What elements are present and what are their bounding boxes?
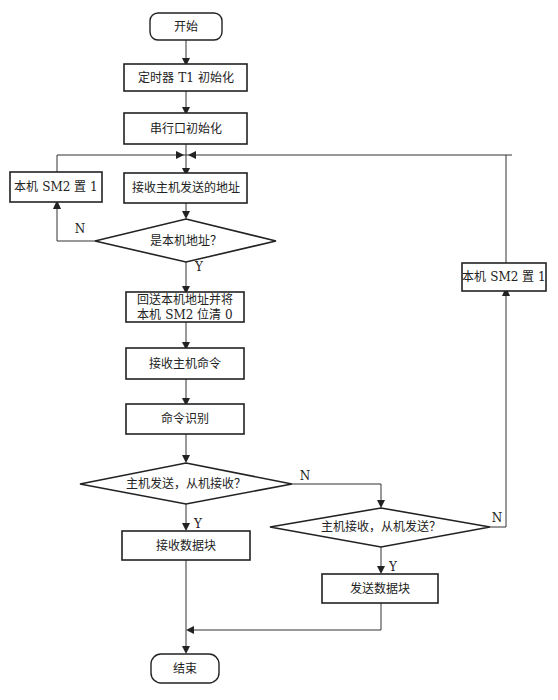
set-sm2-right-label: 本机 SM2 置 1 (462, 270, 545, 284)
yes-label-3: Y (388, 560, 398, 574)
recv-block-label: 接收数据块 (156, 538, 216, 553)
timer-init-label: 定时器 T1 初始化 (138, 70, 233, 85)
decision-is-my-addr-label: 是本机地址？ (150, 234, 222, 248)
no-label-3: N (492, 511, 503, 525)
start-label: 开始 (174, 20, 198, 34)
send-block-label: 发送数据块 (350, 581, 410, 596)
flowchart-canvas: 开始 定时器 T1 初始化 串行口初始化 本机 SM2 置 1 接收主机发送的地… (0, 0, 558, 700)
decision-master-recv[interactable]: 主机接收，从机发送？ (270, 508, 490, 547)
cmd-identify-label: 命令识别 (161, 411, 209, 426)
no-label-2: N (300, 469, 311, 483)
recv-cmd-node[interactable]: 接收主机命令 (126, 348, 244, 379)
serial-init-label: 串行口初始化 (150, 122, 222, 136)
set-sm2-left-node[interactable]: 本机 SM2 置 1 (10, 172, 102, 202)
set-sm2-left-label: 本机 SM2 置 1 (14, 180, 97, 194)
recv-addr-label: 接收主机发送的地址 (132, 180, 240, 195)
recv-cmd-label: 接收主机命令 (149, 356, 221, 371)
end-label: 结束 (173, 662, 197, 676)
recv-block-node[interactable]: 接收数据块 (122, 531, 250, 560)
send-block-node[interactable]: 发送数据块 (322, 574, 438, 603)
decision-master-recv-label: 主机接收，从机发送？ (321, 519, 441, 534)
no-label-1: N (75, 222, 86, 236)
cmd-identify-node[interactable]: 命令识别 (126, 404, 244, 434)
serial-init-node[interactable]: 串行口初始化 (124, 113, 247, 144)
reply-addr-label-line1: 回送本机地址并将 (137, 292, 233, 307)
recv-addr-node[interactable]: 接收主机发送的地址 (124, 173, 247, 203)
decision-is-my-addr[interactable]: 是本机地址？ (95, 219, 276, 262)
start-node[interactable]: 开始 (150, 13, 222, 40)
timer-init-node[interactable]: 定时器 T1 初始化 (124, 64, 247, 91)
reply-addr-label-line2: 本机 SM2 位清 0 (137, 307, 232, 322)
set-sm2-right-node[interactable]: 本机 SM2 置 1 (462, 263, 546, 291)
connectors (53, 40, 512, 654)
yes-label-1: Y (194, 260, 204, 274)
end-node[interactable]: 结束 (151, 654, 219, 683)
yes-label-2: Y (193, 517, 203, 531)
decision-master-send-label: 主机发送，从机接收？ (126, 476, 246, 491)
decision-master-send[interactable]: 主机发送，从机接收？ (80, 463, 292, 504)
reply-addr-node[interactable]: 回送本机地址并将 本机 SM2 位清 0 (126, 292, 244, 322)
